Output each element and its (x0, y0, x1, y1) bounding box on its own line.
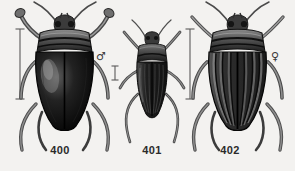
beetle-figure-402 (186, 0, 291, 158)
beetle-figure-401 (118, 18, 186, 144)
sex-symbol-female-402: ♀ (271, 50, 279, 63)
caption-402: 402 (212, 144, 248, 156)
elytra-400 (36, 52, 94, 131)
pronotum-400 (37, 29, 92, 52)
elytra-402 (209, 52, 267, 131)
beetle-figure-400 (12, 0, 117, 158)
pronotum-402 (210, 29, 265, 52)
pronotum-401 (137, 44, 167, 62)
elytra-401 (137, 62, 167, 118)
caption-401: 401 (134, 144, 170, 156)
illustration-plate: ♂ 400 (0, 0, 295, 171)
head-401 (145, 32, 159, 45)
sex-symbol-male-400: ♂ (96, 50, 106, 63)
caption-400: 400 (42, 144, 78, 156)
